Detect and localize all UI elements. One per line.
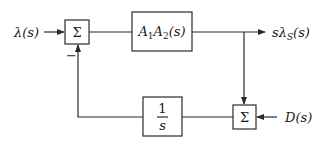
block-diagram: λ(s) Σ − A1A2(s) sλS(s) Σ D(s) 1 s <box>0 0 331 143</box>
forward-block-label: A1A2(s) <box>137 24 185 41</box>
disturbance-label: D(s) <box>284 110 312 125</box>
input-label: λ(s) <box>13 25 39 40</box>
minus-sign: − <box>66 48 77 63</box>
feedback-denominator: s <box>159 118 166 133</box>
output-label: sλS(s) <box>272 25 310 42</box>
sigma-symbol-1: Σ <box>72 25 81 40</box>
feedback-numerator: 1 <box>158 101 166 116</box>
sigma-symbol-2: Σ <box>240 110 249 125</box>
feedback-return-arrow <box>78 45 143 117</box>
